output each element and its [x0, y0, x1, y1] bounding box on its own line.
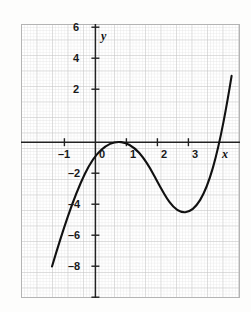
y-tick-label-2: 2 [73, 84, 79, 95]
graph-figure: 6 4 2 –2 –4 –6 –8 –1 0 1 2 3 y x [0, 0, 251, 312]
x-tick-label-2: 2 [161, 149, 167, 160]
x-tick-label-0: 0 [99, 149, 105, 160]
y-tick-label-neg4: –4 [68, 199, 80, 210]
y-tick-label-neg6: –6 [68, 230, 80, 241]
curve-layer [21, 24, 240, 298]
x-tick-label-neg1: –1 [58, 149, 70, 160]
x-tick-label-3: 3 [192, 149, 198, 160]
y-tick-label-6: 6 [73, 22, 79, 33]
y-axis-label: y [101, 30, 106, 42]
y-tick-label-neg8: –8 [68, 261, 80, 272]
x-axis-label: x [222, 148, 228, 160]
y-tick-label-4: 4 [73, 53, 79, 64]
plot-area: 6 4 2 –2 –4 –6 –8 –1 0 1 2 3 y x [21, 24, 240, 298]
x-tick-label-1: 1 [130, 149, 136, 160]
y-tick-label-neg2: –2 [68, 168, 80, 179]
